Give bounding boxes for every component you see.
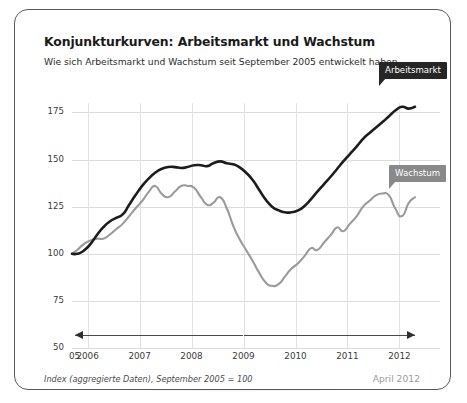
y-tick-75: 75	[38, 295, 64, 305]
chart-series-svg	[72, 103, 415, 348]
callout-wachstum: Wachstum	[389, 165, 446, 182]
chart-plot-area	[72, 103, 415, 348]
x-tick-2007: 2007	[128, 351, 150, 361]
left-arrow-head	[75, 331, 83, 339]
page-subtitle: Wie sich Arbeitsmarkt und Wachstum seit …	[44, 56, 400, 67]
callout-wachstum-tail	[389, 181, 396, 189]
x-tick-2009: 2009	[232, 351, 254, 361]
y-tick-100: 100	[38, 248, 64, 258]
y-axis-labels: 5075100125150175	[38, 103, 64, 348]
gridline-y-50	[72, 348, 440, 349]
callout-arbeitsmarkt: Arbeitsmarkt	[379, 62, 447, 79]
x-tick-2012: 2012	[388, 351, 410, 361]
left-arrow-line	[75, 335, 244, 336]
y-tick-50: 50	[38, 342, 64, 352]
x-axis-labels: 052006200720082009201020112012	[72, 351, 440, 367]
y-tick-175: 175	[38, 106, 64, 116]
x-tick-2011: 2011	[336, 351, 358, 361]
right-arrow-head	[407, 331, 415, 339]
series-line-arbeitsmarkt	[72, 107, 415, 254]
series-line-wachstum	[72, 185, 415, 286]
callout-arbeitsmarkt-tail	[379, 78, 386, 86]
y-tick-125: 125	[38, 201, 64, 211]
x-tick-2008: 2008	[180, 351, 202, 361]
x-tick-2010: 2010	[284, 351, 306, 361]
chart-card: Konjunkturkurven: Arbeitsmarkt und Wachs…	[14, 9, 451, 390]
x-tick-2006: 2006	[76, 351, 98, 361]
right-arrow-line	[244, 335, 416, 336]
footer-date: April 2012	[373, 373, 420, 384]
y-tick-150: 150	[38, 154, 64, 164]
page-title: Konjunkturkurven: Arbeitsmarkt und Wachs…	[44, 34, 375, 49]
footer-note: Index (aggregierte Daten), September 200…	[44, 374, 253, 384]
